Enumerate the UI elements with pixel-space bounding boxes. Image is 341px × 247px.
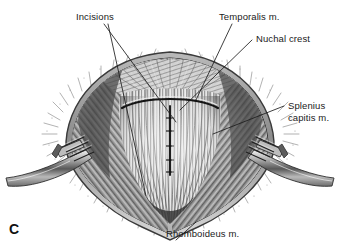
label-temporalis: Temporalis m. [219, 11, 279, 23]
figure-panel: Incisions Temporalis m. Nuchal crest Spl… [0, 0, 341, 247]
panel-letter: C [9, 222, 19, 236]
label-splenius-capitis-line2: capitis m. [288, 112, 329, 124]
label-incisions: Incisions [76, 11, 114, 23]
label-rhomboideus: Rhomboideus m. [166, 228, 239, 240]
label-nuchal-crest: Nuchal crest [256, 33, 310, 45]
label-splenius-capitis-line1: Splenius [288, 100, 325, 112]
